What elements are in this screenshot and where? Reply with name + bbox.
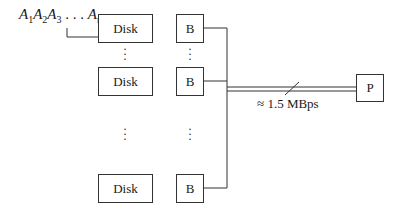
vertical-ellipsis-icon: ··· bbox=[188, 47, 192, 62]
vertical-ellipsis-icon: ··· bbox=[188, 127, 192, 142]
buffer-box-2: B bbox=[176, 67, 204, 96]
disk-box-n: Disk bbox=[98, 174, 153, 203]
vertical-ellipsis-icon: ··· bbox=[123, 47, 127, 62]
vertical-ellipsis-icon: ··· bbox=[123, 127, 127, 142]
bus-width-slash bbox=[285, 82, 299, 95]
buffer-box-1: B bbox=[176, 14, 204, 43]
disk-box-2: Disk bbox=[98, 67, 153, 96]
data-sequence-label: A1A2A3 . . . An bbox=[19, 6, 102, 25]
buffer-box-n: B bbox=[176, 174, 204, 203]
bus-rate-label: ≈ 1.5 MBps bbox=[257, 96, 319, 112]
disk-box-1: Disk bbox=[98, 14, 153, 43]
processor-box: P bbox=[356, 74, 384, 102]
